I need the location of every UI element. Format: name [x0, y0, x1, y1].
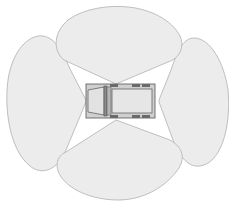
coverage-diagram	[0, 0, 229, 202]
wheel-rear-right-2	[142, 115, 150, 118]
vehicle-cab-back	[107, 87, 111, 115]
wheel-rear-left-2	[142, 84, 150, 87]
wheel-front-left	[110, 84, 118, 87]
wheel-rear-right-1	[132, 115, 140, 118]
wheel-rear-left-1	[132, 84, 140, 87]
vehicle-cargo-bed	[112, 89, 152, 113]
vehicle-cab-divider	[104, 86, 107, 116]
front-zone	[56, 6, 182, 84]
vehicle-cab	[88, 87, 104, 115]
vehicle	[86, 84, 155, 118]
wheel-front-right	[110, 115, 118, 118]
rear-zone	[57, 120, 182, 200]
